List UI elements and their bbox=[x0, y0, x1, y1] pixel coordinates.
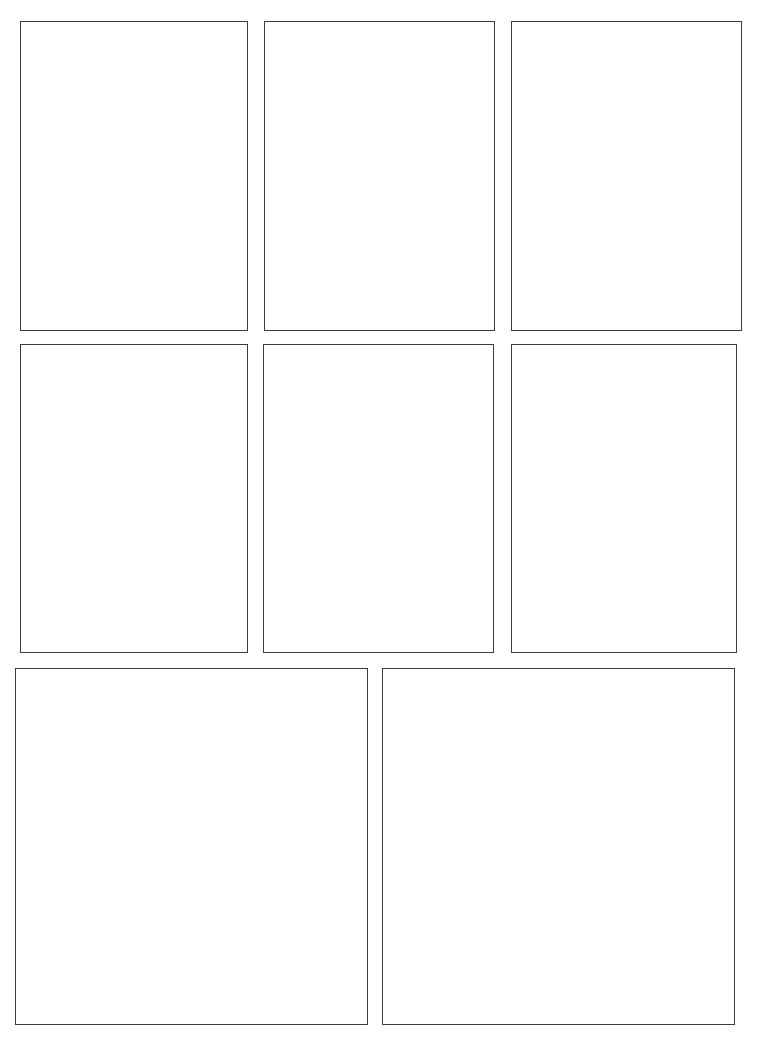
panel-6[interactable] bbox=[511, 344, 737, 653]
panel-7[interactable] bbox=[15, 668, 368, 1025]
panel-3[interactable] bbox=[511, 21, 742, 331]
page-canvas bbox=[0, 0, 768, 1052]
panel-1-content-area bbox=[21, 22, 247, 330]
panel-5[interactable] bbox=[263, 344, 494, 653]
panel-8-content-area bbox=[383, 669, 734, 1024]
panel-1[interactable] bbox=[20, 21, 248, 331]
panel-2[interactable] bbox=[264, 21, 495, 331]
panel-2-content-area bbox=[265, 22, 494, 330]
panel-5-content-area bbox=[264, 345, 493, 652]
panel-6-content-area bbox=[512, 345, 736, 652]
panel-3-content-area bbox=[512, 22, 741, 330]
panel-8[interactable] bbox=[382, 668, 735, 1025]
panel-4-content-area bbox=[21, 345, 247, 652]
panel-4[interactable] bbox=[20, 344, 248, 653]
panel-7-content-area bbox=[16, 669, 367, 1024]
